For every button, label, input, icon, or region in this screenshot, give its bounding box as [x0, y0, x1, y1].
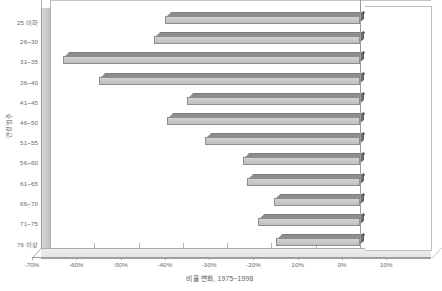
bar: [205, 137, 360, 145]
axis-tick-mark-floor: [32, 257, 33, 260]
bar-top-face: [278, 234, 367, 238]
axis-tick-mark-floor: [121, 257, 122, 260]
bar: [63, 56, 360, 64]
bar-top-face: [260, 214, 366, 218]
bar-top-face: [276, 194, 367, 198]
bar: [243, 157, 360, 165]
x-axis-tick-label: 10%: [283, 261, 313, 268]
bar-top-face: [245, 153, 367, 157]
category-label: 76 이상: [0, 240, 38, 249]
axis-tick-mark-floor: [209, 257, 210, 260]
bar-top-face: [65, 52, 366, 56]
x-axis-tick-label: -60%: [61, 261, 91, 268]
axis-tick-mark-floor: [76, 257, 77, 260]
bar: [167, 117, 360, 125]
y-axis-title: 연령 범주: [4, 101, 13, 151]
bar-top-face: [167, 12, 366, 16]
axis-tick-mark-floor: [386, 257, 387, 260]
zero-reference-line: [360, 0, 361, 248]
bar-top-face: [156, 32, 366, 36]
category-label: 61~65: [0, 180, 38, 187]
x-axis-tick-label: 10%: [371, 261, 401, 268]
x-axis-tick-label: -70%: [17, 261, 47, 268]
x-axis-tick-label: -20%: [238, 261, 268, 268]
axis-tick-mark-floor: [298, 257, 299, 260]
category-label: 36~40: [0, 79, 38, 86]
bar-top-face: [189, 93, 366, 97]
category-label: 56~60: [0, 159, 38, 166]
birth-year-panel: [365, 6, 432, 251]
category-label: 66~70: [0, 200, 38, 207]
value-axis-line: [32, 257, 431, 258]
axis-tick-mark: [139, 243, 140, 248]
x-axis-title: 비율 변화, 1975~1998: [0, 273, 440, 283]
category-label: 71~75: [0, 220, 38, 227]
bar-top-face: [169, 113, 366, 117]
bar: [154, 36, 360, 44]
bar-top-face: [101, 73, 367, 77]
axis-tick-mark-floor: [165, 257, 166, 260]
axis-tick-mark-floor: [342, 257, 343, 260]
axis-tick-mark: [183, 243, 184, 248]
axis-tick-mark: [50, 243, 51, 248]
x-axis-tick-label: 0%: [327, 261, 357, 268]
bar: [247, 178, 360, 186]
plot-top-edge: [50, 0, 431, 1]
x-axis-tick-label: -40%: [150, 261, 180, 268]
bar: [274, 198, 360, 206]
axis-tick-mark: [94, 243, 95, 248]
category-label: 26~30: [0, 38, 38, 45]
bar: [99, 77, 360, 85]
bar-top-face: [207, 133, 366, 137]
axis-tick-mark: [271, 243, 272, 248]
bar-top-face: [249, 174, 366, 178]
category-label: 31~35: [0, 58, 38, 65]
bar: [187, 97, 360, 105]
axis-tick-mark-floor: [253, 257, 254, 260]
category-label: 25 이하: [0, 18, 38, 27]
bar: [165, 16, 360, 24]
bar: [258, 218, 360, 226]
bar: [276, 238, 360, 246]
x-axis-tick-label: -50%: [106, 261, 136, 268]
x-axis-tick-label: -30%: [194, 261, 224, 268]
axis-tick-mark: [227, 243, 228, 248]
